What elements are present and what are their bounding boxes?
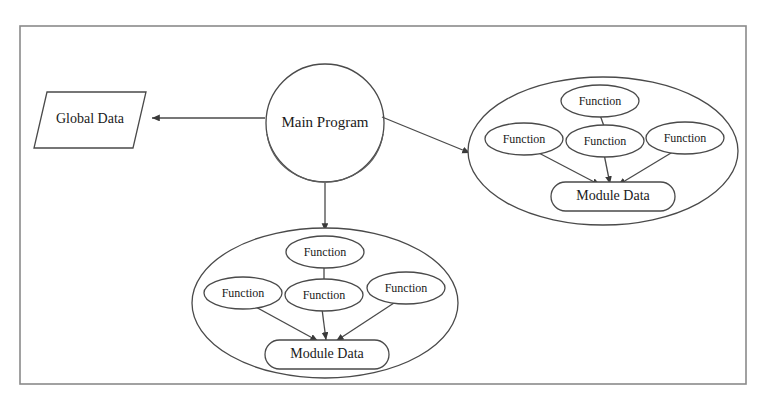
module-right-data[interactable]: Module Data: [551, 182, 675, 211]
module-right-function-top[interactable]: Function: [561, 85, 639, 117]
module-right-function-right[interactable]: Function: [646, 122, 724, 154]
node-global-data[interactable]: Global Data: [34, 92, 146, 148]
edge-main-to-module-right: [382, 117, 470, 153]
function-label: Function: [222, 286, 265, 300]
function-label: Function: [503, 132, 546, 146]
module-right-function-center[interactable]: Function: [566, 125, 644, 157]
module-data-label: Module Data: [290, 346, 364, 361]
diagram-svg: Global Data Main Program Function: [0, 0, 765, 404]
function-label: Function: [664, 131, 707, 145]
main-program-label: Main Program: [281, 114, 368, 130]
function-label: Function: [385, 281, 428, 295]
module-data-label: Module Data: [576, 188, 650, 203]
global-data-label: Global Data: [56, 111, 125, 126]
module-bottom-function-center[interactable]: Function: [285, 279, 363, 311]
function-label: Function: [584, 134, 627, 148]
module-bottom-function-right[interactable]: Function: [367, 272, 445, 304]
diagram-canvas: Global Data Main Program Function: [0, 0, 765, 404]
module-right[interactable]: Function Function Function Function Modu…: [468, 77, 738, 225]
module-bottom-function-left[interactable]: Function: [204, 277, 282, 309]
module-right-function-left[interactable]: Function: [485, 123, 563, 155]
node-main-program[interactable]: Main Program: [266, 64, 384, 182]
function-label: Function: [579, 94, 622, 108]
module-bottom-function-top[interactable]: Function: [286, 236, 364, 268]
function-label: Function: [303, 288, 346, 302]
module-bottom-data[interactable]: Module Data: [265, 340, 389, 369]
module-bottom[interactable]: Function Function Function Function Modu…: [192, 228, 458, 378]
function-label: Function: [304, 245, 347, 259]
